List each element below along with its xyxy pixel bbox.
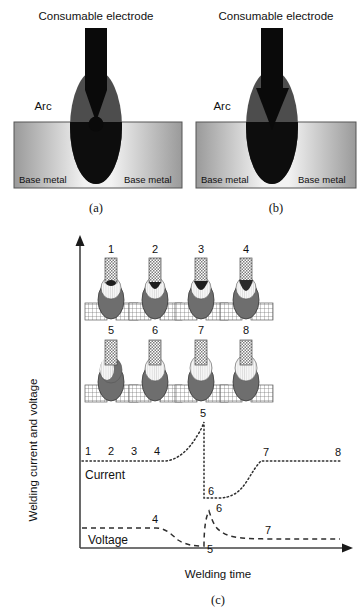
- stage-3-number: 3: [198, 243, 204, 255]
- voltage-curve-group: 4 5 6 7 Voltage: [82, 502, 340, 555]
- panel-b-arc-label: Arc: [213, 100, 231, 112]
- chart-x-axis-arrow-icon: [342, 544, 353, 553]
- panel-c-caption: (c): [211, 593, 225, 607]
- current-marker-3: 3: [131, 445, 137, 457]
- stage-8-number: 8: [243, 324, 249, 336]
- panel-b-base-metal-right-label: Base metal: [298, 174, 346, 185]
- current-marker-2: 2: [108, 445, 114, 457]
- voltage-series-label: Voltage: [88, 533, 128, 547]
- current-curve-group: 1 2 3 4 5 6 7 8 Current: [82, 407, 341, 498]
- figure-root: Consumable electrode Arc Base metal Base…: [0, 0, 363, 615]
- stage-6-number: 6: [152, 324, 158, 336]
- voltage-marker-7: 7: [265, 524, 271, 536]
- panel-a-electrode-shaft: [85, 28, 107, 90]
- current-marker-1: 1: [85, 445, 91, 457]
- chart-xlabel: Welding time: [185, 568, 251, 580]
- panel-b-caption: (b): [269, 201, 284, 215]
- current-series-label: Current: [85, 468, 126, 482]
- current-marker-8: 8: [335, 446, 341, 458]
- stage-1-number: 1: [108, 243, 114, 255]
- panel-a-caption: (a): [89, 201, 103, 215]
- stage-thumbnails-row-2: 5 6 7: [85, 324, 273, 402]
- stage-7-number: 7: [198, 324, 204, 336]
- stage-5-number: 5: [108, 324, 114, 336]
- panel-a-droplet: [89, 117, 104, 132]
- chart-y-axis-arrow-icon: [76, 235, 85, 246]
- panel-b-electrode-label: Consumable electrode: [218, 10, 333, 22]
- voltage-marker-6: 6: [216, 502, 222, 514]
- stage-2-thumbnail: 2: [129, 243, 182, 320]
- panel-b-electrode-shaft: [261, 28, 283, 90]
- panel-b: Consumable electrode Arc Base metal Base…: [196, 10, 356, 215]
- voltage-marker-5: 5: [207, 543, 213, 555]
- stage-6-thumbnail: 6: [129, 324, 182, 402]
- panel-c-chart: Welding current and voltage Welding time…: [27, 235, 353, 607]
- panel-a-electrode-label: Consumable electrode: [38, 10, 153, 22]
- panel-a-base-metal-left-label: Base metal: [19, 174, 67, 185]
- current-marker-4: 4: [154, 445, 160, 457]
- current-marker-6: 6: [208, 485, 214, 497]
- panel-a: Consumable electrode Arc Base metal Base…: [14, 10, 182, 215]
- panel-a-arc-label: Arc: [34, 100, 52, 112]
- panel-b-base-metal-left-label: Base metal: [201, 174, 249, 185]
- stage-4-thumbnail: 4: [220, 243, 273, 320]
- panel-a-base-metal-right-label: Base metal: [124, 174, 172, 185]
- stage-thumbnails-row-1: 1 2 3: [85, 243, 273, 320]
- current-marker-5: 5: [200, 407, 206, 419]
- voltage-marker-4: 4: [152, 513, 158, 525]
- chart-ylabel: Welding current and voltage: [27, 379, 39, 522]
- stage-4-number: 4: [243, 243, 249, 255]
- stage-2-number: 2: [152, 243, 158, 255]
- current-marker-7: 7: [263, 446, 269, 458]
- stage-8-thumbnail: 8: [220, 324, 273, 402]
